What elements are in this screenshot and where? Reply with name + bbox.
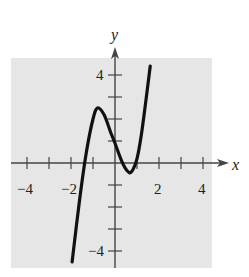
- x-axis-label: x: [231, 156, 239, 173]
- y-tick-label: 4: [96, 67, 104, 83]
- chart: −4−2244−4 x y: [0, 0, 249, 277]
- y-axis-label: y: [109, 26, 119, 44]
- x-tick-label: −4: [17, 181, 33, 197]
- x-tick-label: 4: [198, 181, 206, 197]
- x-tick-label: −2: [61, 181, 77, 197]
- x-tick-label: 2: [154, 181, 162, 197]
- y-tick-label: −4: [88, 243, 104, 259]
